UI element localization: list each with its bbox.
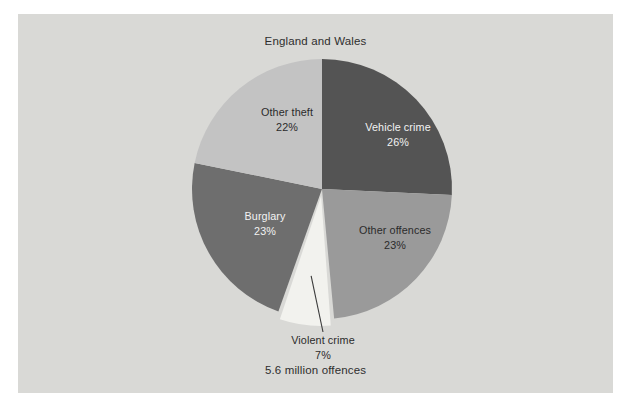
chart-panel: England and Wales Vehicle crime26%Other … xyxy=(18,14,613,393)
slice-value-other-theft: 22% xyxy=(276,121,298,133)
slice-label-other-offences: Other offences xyxy=(359,224,432,236)
pie-slice-other-offences[interactable] xyxy=(322,189,452,318)
slice-label-other-theft: Other theft xyxy=(261,106,313,118)
chart-canvas: England and Wales Vehicle crime26%Other … xyxy=(0,0,635,412)
slice-value-burglary: 23% xyxy=(254,225,276,237)
slice-label-burglary: Burglary xyxy=(244,210,286,222)
chart-footer-total: 5.6 million offences xyxy=(18,364,613,376)
pie-chart: Vehicle crime26%Other offences23%Violent… xyxy=(18,14,613,393)
slice-label-violent-crime: Violent crime xyxy=(291,334,355,346)
slice-value-other-offences: 23% xyxy=(384,239,406,251)
pie-slices-group xyxy=(192,59,452,326)
slice-label-vehicle-crime: Vehicle crime xyxy=(365,121,431,133)
slice-value-vehicle-crime: 26% xyxy=(387,136,409,148)
slice-value-violent-crime: 7% xyxy=(315,349,331,361)
